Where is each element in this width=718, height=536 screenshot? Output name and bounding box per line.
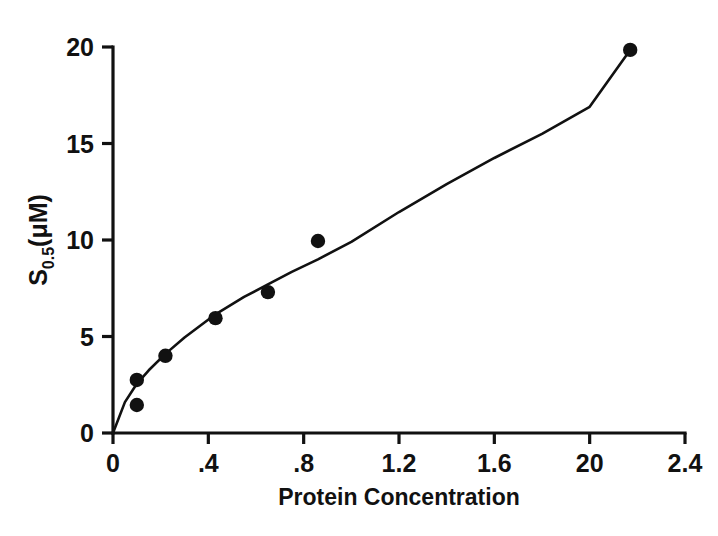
x-tick-label: .8 (293, 449, 314, 477)
y-tick-label: 20 (66, 33, 94, 61)
data-point (130, 373, 144, 387)
scatter-plot: 05101520 0.4.81.21.6202.4 Protein Concen… (0, 0, 718, 536)
y-axis-units: (μM) (24, 194, 52, 247)
chart-figure: 05101520 0.4.81.21.6202.4 Protein Concen… (0, 0, 718, 536)
data-point (158, 349, 172, 363)
data-point (261, 285, 275, 299)
y-tick-label: 0 (80, 419, 94, 447)
y-axis-symbol: S (24, 269, 52, 286)
data-point (208, 311, 222, 325)
x-tick-label: 1.6 (477, 449, 512, 477)
x-tick-label: .4 (198, 449, 219, 477)
x-tick-label: 20 (576, 449, 604, 477)
data-point (130, 398, 144, 412)
data-point (623, 43, 637, 57)
x-axis-title: Protein Concentration (278, 484, 520, 510)
data-point (311, 234, 325, 248)
x-tick-label: 2.4 (668, 449, 703, 477)
y-axis-subscript: 0.5 (40, 247, 57, 269)
y-tick-label: 15 (66, 130, 94, 158)
x-tick-label: 1.2 (382, 449, 417, 477)
x-tick-label: 0 (106, 449, 120, 477)
y-tick-label: 5 (80, 323, 94, 351)
y-tick-label: 10 (66, 226, 94, 254)
